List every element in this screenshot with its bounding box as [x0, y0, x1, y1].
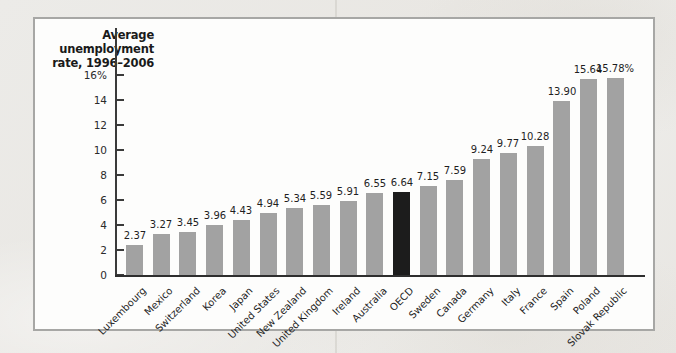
y-axis-tick	[115, 99, 124, 101]
chart-panel: Average unemployment rate, 1996–2006 024…	[33, 17, 655, 331]
y-axis-tick	[115, 249, 124, 251]
bar-ireland	[340, 201, 357, 275]
y-tick-label: 14	[69, 93, 107, 107]
bar-slovak-republic	[607, 78, 624, 275]
bar-value-label: 13.90	[539, 85, 585, 98]
bar-oecd	[393, 192, 410, 275]
chart-title-line-2: unemployment	[44, 42, 154, 56]
y-axis-tick	[115, 74, 124, 76]
bar-germany	[473, 159, 490, 275]
y-tick-label: 10	[69, 143, 107, 157]
y-tick-label: 12	[69, 118, 107, 132]
bar-korea	[206, 225, 223, 275]
y-tick-label: 8	[69, 168, 107, 182]
bar-value-label: 10.28	[512, 130, 558, 143]
bar-canada	[446, 180, 463, 275]
x-axis-label: France	[517, 285, 548, 316]
y-tick-label: 0	[69, 268, 107, 282]
x-axis-label: Korea	[201, 285, 229, 313]
y-axis-tick	[115, 174, 124, 176]
bar-italy	[500, 153, 517, 275]
x-axis-line	[115, 275, 645, 277]
bar-sweden	[420, 186, 437, 275]
bar-united-kingdom	[313, 205, 330, 275]
y-axis-tick	[115, 124, 124, 126]
bar-new-zealand	[286, 208, 303, 275]
bar-luxembourg	[126, 245, 143, 275]
y-axis-tick	[115, 149, 124, 151]
y-tick-label: 6	[69, 193, 107, 207]
bar-spain	[553, 101, 570, 275]
y-axis-tick	[115, 199, 124, 201]
x-axis-label: Luxembourg	[96, 285, 148, 337]
chart-title: Average unemployment rate, 1996–2006	[44, 28, 154, 70]
y-tick-label: 16%	[69, 68, 107, 82]
bar-japan	[233, 220, 250, 275]
bar-mexico	[153, 234, 170, 275]
bar-united-states	[260, 213, 277, 275]
x-axis-label: Italy	[499, 285, 522, 308]
page-background: Average unemployment rate, 1996–2006 024…	[0, 0, 676, 353]
bar-france	[527, 146, 544, 275]
y-tick-label: 2	[69, 243, 107, 257]
y-tick-label: 4	[69, 218, 107, 232]
bar-value-label: 15.78%	[592, 62, 638, 75]
bar-value-label: 7.59	[432, 164, 478, 177]
y-axis-tick	[115, 224, 124, 226]
chart-title-line-1: Average	[44, 28, 154, 42]
bar-switzerland	[179, 232, 196, 275]
bar-australia	[366, 193, 383, 275]
bar-poland	[580, 79, 597, 275]
